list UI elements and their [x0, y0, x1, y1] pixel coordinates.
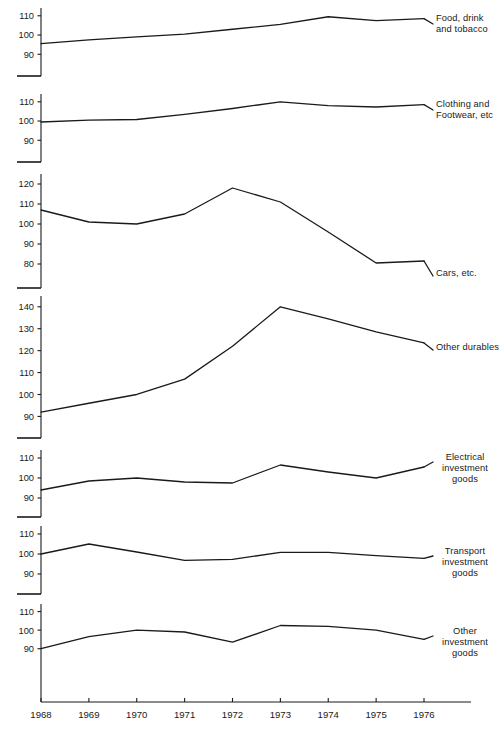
panel-electrical-investment-goods: 11010090: [17, 450, 433, 517]
y-tick-label: 140: [18, 302, 34, 312]
series-label-electrical-investment-goods: Electrical investment goods: [436, 452, 494, 486]
y-tick-label: 90: [24, 412, 34, 422]
y-tick-label: 80: [24, 259, 34, 269]
series-label-line: Transport: [436, 546, 494, 557]
series-label-line: goods: [436, 474, 494, 485]
y-tick-label: 100: [18, 116, 34, 126]
y-tick-label: 90: [24, 493, 34, 503]
x-tick-label: 1973: [270, 709, 291, 720]
y-tick-label: 110: [19, 529, 34, 539]
series-line-transport-investment-goods: [41, 544, 424, 560]
series-line-electrical-investment-goods: [41, 465, 424, 490]
x-axis: 196819691970197119721973197419751976: [30, 698, 471, 720]
series-line-other-durables: [41, 307, 424, 412]
y-tick-label: 110: [19, 368, 34, 378]
y-tick-label: 100: [18, 549, 34, 559]
panel-other-investment-goods: 11010090: [18, 604, 433, 702]
series-label-line: investment: [436, 463, 494, 474]
y-tick-label: 100: [18, 219, 34, 229]
label-leader-line-cars-etc: [424, 261, 433, 276]
panel-clothing-footwear: 11010090: [17, 94, 433, 162]
series-line-other-investment-goods: [41, 626, 424, 649]
x-tick-label: 1968: [30, 709, 51, 720]
label-leader-line-clothing-footwear: [424, 105, 433, 110]
y-tick-label: 110: [19, 453, 34, 463]
y-tick-label: 100: [18, 626, 34, 636]
label-leader-line-transport-investment-goods: [424, 556, 433, 558]
series-label-other-investment-goods: Other investment goods: [436, 626, 494, 660]
series-label-line: Food, drink: [436, 13, 488, 24]
series-label-clothing-footwear: Clothing and Footwear, etc: [436, 99, 493, 121]
y-tick-label: 90: [24, 50, 34, 60]
series-line-cars-etc: [41, 188, 424, 263]
series-label-line: and tobacco: [436, 24, 488, 35]
y-tick-label: 100: [18, 473, 34, 483]
panel-transport-investment-goods: 11010090: [17, 526, 433, 594]
x-tick-label: 1972: [222, 709, 243, 720]
y-tick-label: 100: [18, 30, 34, 40]
series-label-line: Cars, etc.: [436, 268, 477, 279]
label-leader-line-electrical-investment-goods: [424, 462, 433, 467]
label-leader-line-food-drink-tobacco: [424, 19, 433, 24]
series-label-food-drink-tobacco: Food, drink and tobacco: [436, 13, 488, 35]
label-leader-line-other-durables: [424, 343, 433, 350]
series-label-line: Clothing and: [436, 99, 493, 110]
series-label-cars-etc: Cars, etc.: [436, 268, 477, 279]
y-tick-label: 120: [18, 179, 34, 189]
series-label-line: goods: [436, 568, 494, 579]
panel-other-durables: 14013012011010090: [17, 296, 433, 438]
series-label-line: Other: [436, 626, 494, 637]
series-label-line: investment: [436, 637, 494, 648]
series-label-transport-investment-goods: Transport investment goods: [436, 546, 494, 580]
series-label-line: Electrical: [436, 452, 494, 463]
x-tick-label: 1976: [413, 709, 434, 720]
x-tick-label: 1971: [174, 709, 195, 720]
y-tick-label: 90: [24, 136, 34, 146]
series-label-line: Other durables: [436, 342, 499, 353]
series-label-line: Footwear, etc: [436, 110, 493, 121]
y-tick-label: 90: [24, 239, 34, 249]
y-tick-label: 120: [18, 346, 34, 356]
y-tick-label: 110: [19, 199, 34, 209]
series-label-line: goods: [436, 648, 494, 659]
panel-cars-etc: 1201101009080: [17, 174, 433, 288]
x-tick-label: 1970: [126, 709, 147, 720]
series-label-other-durables: Other durables: [436, 342, 499, 353]
y-tick-label: 90: [24, 569, 34, 579]
series-label-line: investment: [436, 557, 494, 568]
label-leader-line-other-investment-goods: [424, 636, 433, 639]
y-tick-label: 100: [18, 390, 34, 400]
y-tick-label: 110: [19, 11, 34, 21]
x-tick-label: 1974: [318, 709, 340, 720]
y-tick-label: 110: [19, 607, 34, 617]
x-tick-label: 1975: [365, 709, 386, 720]
panel-food-drink-tobacco: 11010090: [17, 8, 433, 76]
y-tick-label: 130: [18, 324, 34, 334]
series-line-clothing-footwear: [41, 102, 424, 122]
y-tick-label: 110: [19, 97, 34, 107]
y-tick-label: 90: [24, 644, 34, 654]
series-line-food-drink-tobacco: [41, 17, 424, 44]
x-tick-label: 1969: [78, 709, 99, 720]
